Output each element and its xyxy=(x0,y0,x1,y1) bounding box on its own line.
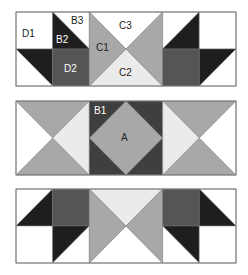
quilt-pattern-svg: D1 B3 B2 D2 C1 C3 C2 B1 A xyxy=(0,0,248,275)
label-b3: B3 xyxy=(71,15,84,26)
square-cell xyxy=(163,189,200,226)
bottom-strip xyxy=(16,189,236,263)
label-c2: C2 xyxy=(119,67,132,78)
label-d1: D1 xyxy=(22,28,35,39)
label-c1: C1 xyxy=(96,42,109,53)
quilt-diagram: D1 B3 B2 D2 C1 C3 C2 B1 A xyxy=(0,0,248,275)
square-cell xyxy=(199,12,236,49)
quilt-block xyxy=(16,101,89,175)
label-d2: D2 xyxy=(64,63,77,74)
square-cell xyxy=(199,226,236,263)
label-b2: B2 xyxy=(56,34,69,45)
quilt-block xyxy=(89,189,162,263)
square-cell xyxy=(163,49,200,86)
quilt-block xyxy=(163,101,236,175)
quilt-block xyxy=(163,189,236,263)
square-cell xyxy=(16,226,53,263)
quilt-block xyxy=(16,189,89,263)
label-b1: B1 xyxy=(94,105,107,116)
square-cell xyxy=(53,189,90,226)
label-c3: C3 xyxy=(119,20,132,31)
label-a: A xyxy=(121,132,128,143)
quilt-block xyxy=(163,12,236,86)
